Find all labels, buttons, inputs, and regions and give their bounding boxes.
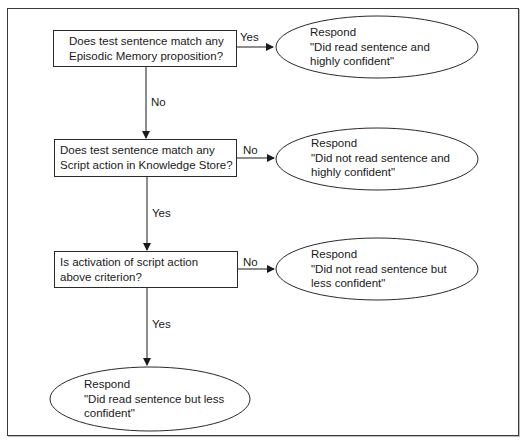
edge-label-d1-no: No: [151, 96, 166, 109]
response-2-line-1: Respond: [311, 136, 450, 151]
edge-label-d2-yes: Yes: [152, 207, 171, 220]
response-4-line-2: "Did read sentence but less: [84, 392, 224, 407]
response-2-text: Respond "Did not read sentence and highl…: [311, 136, 450, 180]
response-1-line-3: highly confident": [310, 54, 430, 69]
response-3-line-3: less confident": [311, 276, 447, 291]
response-1-line-1: Respond: [310, 25, 430, 40]
response-4-line-3: confident": [84, 406, 224, 421]
decision-box-3: Is activation of script action above cri…: [54, 251, 238, 288]
response-3-line-2: "Did not read sentence but: [311, 262, 447, 277]
decision-3-line-1: Is activation of script action: [60, 255, 237, 270]
response-1-text: Respond "Did read sentence and highly co…: [310, 25, 430, 69]
decision-1-line-2: Episodic Memory proposition?: [69, 49, 236, 64]
response-3-line-1: Respond: [311, 247, 447, 262]
response-2-line-3: highly confident": [311, 165, 450, 180]
response-4-text: Respond "Did read sentence but less conf…: [84, 377, 224, 421]
response-1-line-2: "Did read sentence and: [310, 40, 430, 55]
response-3-text: Respond "Did not read sentence but less …: [311, 247, 447, 291]
decision-1-line-1: Does test sentence match any: [69, 34, 236, 49]
edge-label-d2-no: No: [243, 144, 258, 157]
decision-2-line-1: Does test sentence match any: [60, 143, 236, 158]
decision-2-line-2: Script action in Knowledge Store?: [60, 158, 236, 173]
edge-label-d1-yes: Yes: [240, 31, 259, 44]
response-4-line-1: Respond: [84, 377, 224, 392]
edge-label-d3-yes: Yes: [152, 318, 171, 331]
response-2-line-2: "Did not read sentence and: [311, 151, 450, 166]
edge-label-d3-no: No: [243, 256, 258, 269]
decision-box-1: Does test sentence match any Episodic Me…: [53, 30, 237, 67]
decision-3-line-2: above criterion?: [60, 270, 237, 285]
decision-box-2: Does test sentence match any Script acti…: [54, 139, 237, 177]
